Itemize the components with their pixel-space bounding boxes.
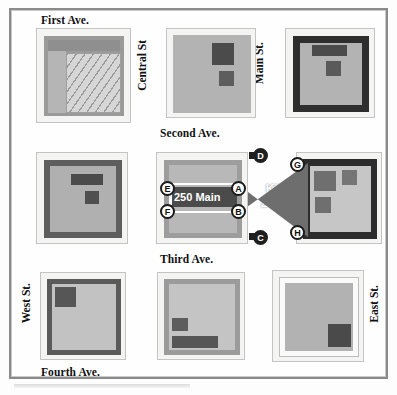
roof-unit-nw xyxy=(314,171,336,191)
marker-a[interactable]: A xyxy=(231,181,246,196)
street-label-east-st: East St. xyxy=(368,285,380,323)
block-southwest xyxy=(40,272,126,360)
block-mid-west xyxy=(36,152,128,244)
roof-unit-bar xyxy=(71,174,103,185)
block-southeast xyxy=(272,270,364,362)
block-northeast xyxy=(285,28,375,118)
roof-unit-square xyxy=(326,61,341,76)
roof-unit-bar xyxy=(312,45,347,56)
roof-unit-square xyxy=(85,191,99,204)
leader-line-bottom xyxy=(169,211,237,213)
address-band: 250 Main xyxy=(169,187,237,207)
building-north-wing xyxy=(48,40,120,51)
marker-c[interactable]: C xyxy=(253,230,268,245)
roof-unit-sw xyxy=(315,197,331,213)
roof-unit-bar xyxy=(172,336,218,348)
scan-artifact xyxy=(14,384,190,388)
roof-unit-small xyxy=(219,71,234,86)
marker-f[interactable]: F xyxy=(160,204,175,219)
roof-unit-nw xyxy=(55,287,76,307)
street-label-west-st-wrap: West St. xyxy=(20,283,32,323)
marker-g[interactable]: G xyxy=(290,157,305,172)
street-label-fourth-ave: Fourth Ave. xyxy=(41,366,100,378)
block-north-central xyxy=(166,28,256,118)
street-label-central-st-wrap: Central St xyxy=(136,40,148,91)
street-label-east-st-wrap: East St. xyxy=(368,285,380,323)
street-label-first-ave: First Ave. xyxy=(41,14,89,26)
roof-unit-ne xyxy=(342,170,357,185)
block-target-250-main[interactable]: 250 Main xyxy=(156,152,248,244)
street-label-third-ave: Third Ave. xyxy=(160,253,213,265)
leader-line-top xyxy=(169,183,237,185)
marker-d[interactable]: D xyxy=(253,148,268,163)
block-south-central xyxy=(157,272,245,360)
marker-h[interactable]: H xyxy=(290,225,305,240)
marker-b[interactable]: B xyxy=(231,204,246,219)
block-northwest xyxy=(36,28,131,123)
address-label: 250 Main xyxy=(174,191,220,203)
courtyard-hatched-area xyxy=(66,53,121,113)
marker-e[interactable]: E xyxy=(160,181,175,196)
block-mid-east xyxy=(296,152,382,244)
building-west-wing xyxy=(48,51,66,113)
roof-unit-square xyxy=(172,318,188,331)
street-label-second-ave: Second Ave. xyxy=(160,127,220,139)
map-figure: First Ave. Second Ave. Third Ave. Fourth… xyxy=(0,0,397,395)
roof-unit-large xyxy=(212,43,234,65)
street-label-west-st: West St. xyxy=(20,283,32,323)
street-label-central-st: Central St xyxy=(136,40,148,91)
roof-unit-se xyxy=(328,324,351,347)
